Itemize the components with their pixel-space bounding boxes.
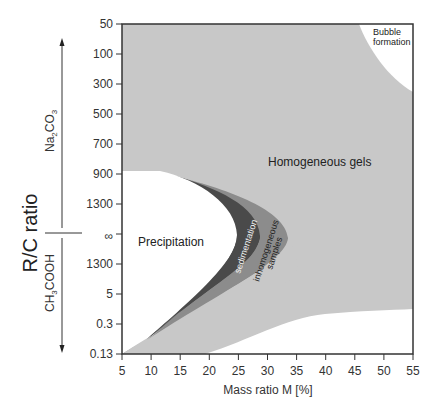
y-tick-label: 0.13	[90, 347, 114, 361]
x-tick-label: 35	[290, 364, 304, 378]
y-tick-label: 700	[93, 137, 113, 151]
na2co3-arrow-head	[60, 38, 65, 46]
y-tick-label: 1300	[86, 257, 113, 271]
x-tick-label: 5	[119, 364, 126, 378]
x-tick-label: 25	[232, 364, 246, 378]
x-tick-label: 40	[319, 364, 333, 378]
y-tick-label: 500	[93, 107, 113, 121]
x-axis-title: Mass ratio M [%]	[223, 383, 312, 397]
na2co3-label: Na2CO3	[43, 109, 59, 152]
x-axis: 510152025303540455055	[119, 354, 420, 378]
x-tick-label: 10	[144, 364, 158, 378]
y-tick-label: 900	[93, 167, 113, 181]
label-homogeneous-gels: Homogeneous gels	[268, 155, 371, 169]
label-bubble-formation-2: formation	[373, 37, 411, 47]
y-tick-label: 5	[106, 287, 113, 301]
x-tick-label: 45	[348, 364, 362, 378]
y-tick-label: 1300	[86, 197, 113, 211]
ch3cooh-label: CH3COOH	[43, 254, 59, 312]
y-tick-label: ∞	[104, 229, 113, 243]
x-tick-label: 20	[203, 364, 217, 378]
ch3cooh-arrow-head	[60, 345, 65, 353]
y-axis-title: R/C ratio	[19, 194, 41, 273]
y-tick-label: 300	[93, 77, 113, 91]
y-tick-label: 100	[93, 47, 113, 61]
label-precipitation: Precipitation	[138, 235, 204, 249]
x-tick-label: 50	[377, 364, 391, 378]
y-tick-label: 0.3	[96, 317, 113, 331]
label-bubble-formation-1: Bubble	[373, 27, 401, 37]
x-tick-label: 30	[261, 364, 275, 378]
y-axis: 501003005007009001300∞130050.30.13	[86, 17, 122, 361]
x-tick-label: 55	[406, 364, 420, 378]
x-tick-label: 15	[174, 364, 188, 378]
phase-diagram: 501003005007009001300∞130050.30.13 51015…	[0, 0, 438, 416]
y-tick-label: 50	[100, 17, 114, 31]
